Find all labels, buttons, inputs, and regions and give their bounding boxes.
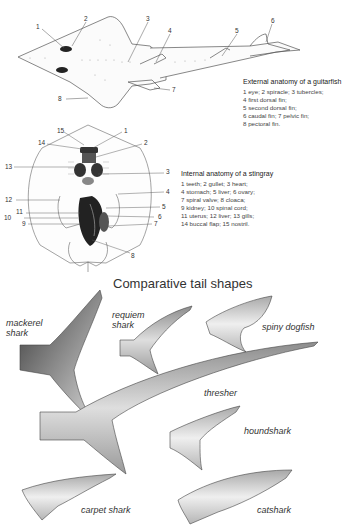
- mackerel-shark-tail: [20, 290, 102, 420]
- catshark-tail: [178, 470, 292, 524]
- label-line: requiem: [112, 310, 145, 320]
- label-carpet-shark: carpet shark: [81, 505, 131, 515]
- label-line: shark: [6, 328, 43, 338]
- label-requiem-shark: requiem shark: [112, 310, 145, 330]
- label-mackerel-shark: mackerel shark: [6, 318, 43, 338]
- label-thresher: thresher: [204, 388, 237, 398]
- tail-shapes-illustration: [0, 0, 350, 527]
- label-line: mackerel: [6, 318, 43, 328]
- label-catshark: catshark: [257, 505, 291, 515]
- label-line: shark: [112, 320, 145, 330]
- houndshark-tail: [170, 406, 240, 470]
- label-houndshark: houndshark: [244, 426, 291, 436]
- label-spiny-dogfish: spiny dogfish: [262, 322, 315, 332]
